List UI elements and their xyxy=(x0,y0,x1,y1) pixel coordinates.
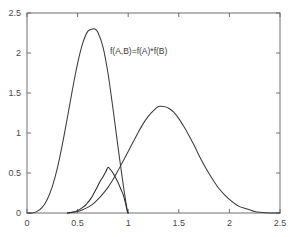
y-tick-label: 0 xyxy=(0,209,21,218)
x-tick-label: 1.5 xyxy=(173,219,186,228)
x-tick-label: 0.5 xyxy=(71,219,84,228)
chart-annotation: f(A,B)=f(A)*f(B) xyxy=(110,47,167,56)
x-tick-label: 2 xyxy=(227,219,232,228)
y-tick-label: 0.5 xyxy=(0,169,21,178)
plot-area xyxy=(0,0,290,237)
y-tick-label: 2.5 xyxy=(0,9,21,18)
y-tick-label: 1 xyxy=(0,129,21,138)
x-tick-label: 0 xyxy=(24,219,29,228)
x-tick-label: 2.5 xyxy=(274,219,287,228)
chart-figure: 00.511.522.5 00.511.522.5 f(A,B)=f(A)*f(… xyxy=(0,0,290,237)
y-tick-label: 2 xyxy=(0,49,21,58)
y-tick-label: 1.5 xyxy=(0,89,21,98)
x-tick-label: 1 xyxy=(126,219,131,228)
plot-background xyxy=(0,0,290,237)
